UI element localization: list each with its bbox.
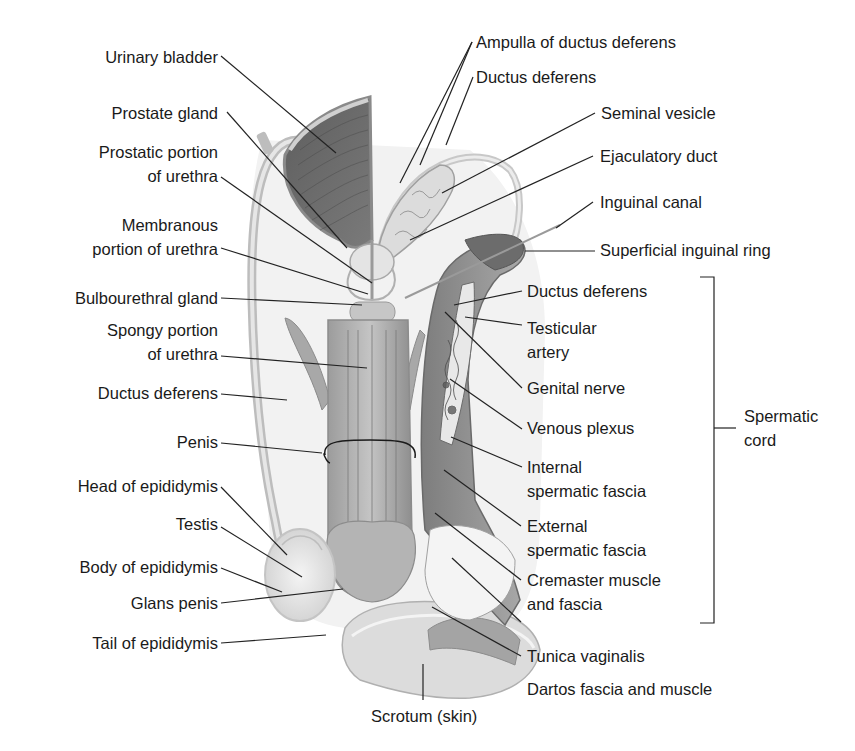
label-ductus-deferens-top: Ductus deferens xyxy=(476,65,596,89)
label-inguinal-canal: Inguinal canal xyxy=(600,190,702,214)
label-ductus-deferens-cord: Ductus deferens xyxy=(527,279,647,303)
label-cremaster-muscle: Cremaster muscle and fascia xyxy=(527,568,661,616)
label-prostate-gland: Prostate gland xyxy=(112,101,218,125)
penis-illus xyxy=(324,320,415,602)
label-dartos: Dartos fascia and muscle xyxy=(527,677,712,701)
label-penis: Penis xyxy=(177,430,218,454)
label-spermatic-cord: Spermatic cord xyxy=(744,404,818,452)
label-spongy-urethra: Spongy portion of urethra xyxy=(107,318,218,366)
label-urinary-bladder: Urinary bladder xyxy=(105,45,218,69)
label-genital-nerve: Genital nerve xyxy=(527,376,625,400)
label-prostatic-urethra: Prostatic portion of urethra xyxy=(99,140,218,188)
label-testis: Testis xyxy=(176,512,218,536)
label-seminal-vesicle: Seminal vesicle xyxy=(601,101,716,125)
label-superficial-inguinal-ring: Superficial inguinal ring xyxy=(600,238,771,262)
label-membranous-urethra: Membranous portion of urethra xyxy=(92,213,218,261)
label-ampulla: Ampulla of ductus deferens xyxy=(476,30,676,54)
label-glans-penis: Glans penis xyxy=(131,591,218,615)
label-scrotum: Scrotum (skin) xyxy=(371,704,477,728)
label-body-of-epididymis: Body of epididymis xyxy=(80,555,219,579)
label-tunica-vaginalis: Tunica vaginalis xyxy=(527,644,645,668)
label-testicular-artery: Testicular artery xyxy=(527,316,597,364)
label-venous-plexus: Venous plexus xyxy=(527,416,634,440)
label-head-of-epididymis: Head of epididymis xyxy=(78,474,218,498)
anatomy-figure: Urinary bladder Prostate gland Prostatic… xyxy=(0,0,855,751)
label-internal-spermatic-fascia: Internal spermatic fascia xyxy=(527,455,646,503)
label-ductus-deferens-left: Ductus deferens xyxy=(98,381,218,405)
label-external-spermatic-fascia: External spermatic fascia xyxy=(527,514,646,562)
label-tail-of-epididymis: Tail of epididymis xyxy=(92,631,218,655)
label-bulbourethral-gland: Bulbourethral gland xyxy=(75,286,218,310)
label-ejaculatory-duct: Ejaculatory duct xyxy=(600,144,717,168)
